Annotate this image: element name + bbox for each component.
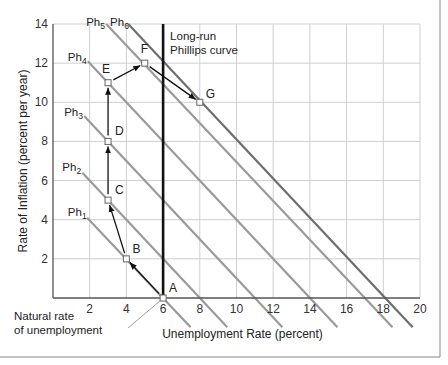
point-label-d: D xyxy=(115,124,124,138)
point-b xyxy=(123,256,129,262)
long-run-label-line2: Phillips curve xyxy=(170,44,238,56)
natural-rate-label-line2: of unemployment xyxy=(14,324,103,336)
point-d xyxy=(105,138,111,144)
y-tick-label: 12 xyxy=(35,56,49,70)
point-f xyxy=(142,60,148,66)
x-tick-label: 6 xyxy=(160,302,167,316)
point-label-b: B xyxy=(132,242,140,256)
point-e xyxy=(105,80,111,86)
x-tick-label: 2 xyxy=(86,302,93,316)
point-label-e: E xyxy=(102,62,110,76)
adjustment-arrows xyxy=(108,65,196,293)
curve-label-ph3: Ph3 xyxy=(64,106,83,121)
y-axis-title: Rate of Inflation (percent per year) xyxy=(16,70,30,253)
y-tick-label: 14 xyxy=(35,17,49,31)
point-label-f: F xyxy=(141,42,148,56)
point-label-a: A xyxy=(169,281,177,295)
x-tick-label: 16 xyxy=(340,302,354,316)
natural-rate-label-line1: Natural rate xyxy=(14,310,74,322)
y-tick-label: 8 xyxy=(41,134,48,148)
point-label-c: C xyxy=(115,183,124,197)
x-tick-label: 12 xyxy=(267,302,281,316)
x-tick-label: 4 xyxy=(123,302,130,316)
x-axis-title: Unemployment Rate (percent) xyxy=(162,327,323,341)
y-tick-label: 2 xyxy=(41,252,48,266)
y-tick-label: 10 xyxy=(35,95,49,109)
point-label-g: G xyxy=(206,87,215,101)
y-tick-label: 4 xyxy=(41,213,48,227)
y-tick-label: 6 xyxy=(41,174,48,188)
x-tick-label: 20 xyxy=(413,302,427,316)
phillips-curve-chart: ABCDEFG 24681012141618202468101214 Ph1Ph… xyxy=(0,0,448,365)
x-tick-label: 8 xyxy=(196,302,203,316)
phillips-curve-ph2 xyxy=(82,173,227,328)
arrow-b-to-c xyxy=(110,205,125,253)
x-tick-label: 10 xyxy=(230,302,244,316)
curve-label-ph2: Ph2 xyxy=(62,161,81,176)
curve-label-ph6: Ph6 xyxy=(110,16,129,31)
point-g xyxy=(197,99,203,105)
phillips-curve-ph3 xyxy=(84,116,282,327)
curve-label-ph1: Ph1 xyxy=(68,206,87,221)
x-tick-label: 14 xyxy=(303,302,317,316)
natural-rate-pointer xyxy=(128,300,161,328)
x-tick-label: 18 xyxy=(377,302,391,316)
curve-label-ph5: Ph5 xyxy=(86,16,105,31)
point-c xyxy=(105,197,111,203)
curve-label-ph4: Ph4 xyxy=(68,51,87,66)
arrow-a-to-b xyxy=(130,263,159,294)
long-run-label-line1: Long-run xyxy=(170,30,216,42)
